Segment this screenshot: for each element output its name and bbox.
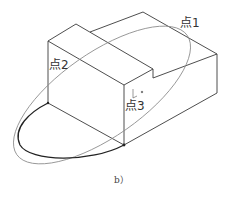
figure-caption: b） — [114, 173, 129, 186]
back-top-edge — [90, 12, 143, 32]
point-3-label: 点3 — [125, 100, 145, 112]
point-1-label: 点1 — [180, 17, 200, 29]
vertex-dot — [123, 144, 126, 147]
bottom-arc — [18, 103, 124, 158]
point-2-label: 点2 — [49, 59, 69, 71]
vertex-dot — [47, 102, 49, 104]
tall-block-top-edges — [48, 24, 153, 85]
axis-triad-icon — [133, 89, 143, 98]
step-edges — [153, 54, 217, 78]
